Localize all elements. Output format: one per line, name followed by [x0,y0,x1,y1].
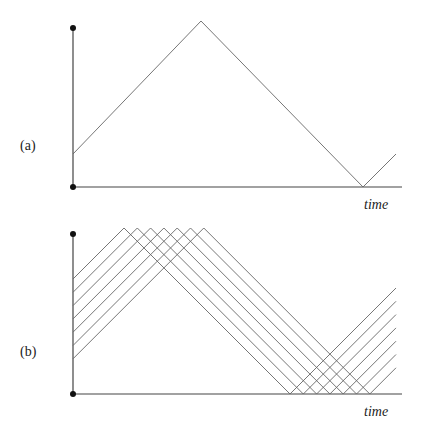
triangle-wave-b [73,228,396,394]
lower-bound-dot-a [70,184,76,190]
panel-b: (b) time [20,228,402,419]
time-label-a: time [364,197,388,212]
triangle-wave-b [73,228,396,394]
panel-a: (a) time [20,21,402,212]
panel-label-b: (b) [20,344,37,360]
upper-bound-dot-b [70,231,76,237]
panel-label-a: (a) [20,138,36,154]
triangle-wave-b [73,228,396,394]
diagram: (a) time (b) time [0,0,425,434]
triangle-waves-b [73,228,396,394]
triangle-wave-b [73,228,396,394]
lower-bound-dot-b [70,391,76,397]
triangle-wave-a [73,21,396,187]
triangle-wave-b [73,228,396,394]
time-label-b: time [364,404,388,419]
triangle-wave-b [73,228,396,394]
upper-bound-dot-a [70,25,76,31]
triangle-wave-b [73,228,396,394]
